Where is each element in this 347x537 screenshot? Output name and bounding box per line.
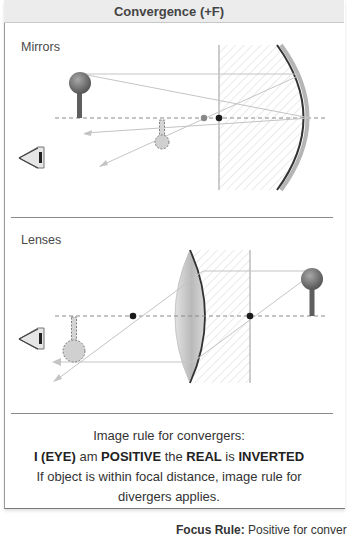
- object-ball-icon: [69, 72, 91, 118]
- image-ball-icon: [155, 120, 169, 149]
- rule-exception-line1: If object is within focal distance, imag…: [4, 467, 334, 487]
- rule-exception-line2: divergers applies.: [4, 487, 334, 507]
- eye-icon: [19, 328, 44, 349]
- focus-rule-label: Focus Rule:: [176, 523, 245, 537]
- mnemonic-text: is: [222, 449, 239, 464]
- mnemonic-eye: I (EYE): [34, 449, 76, 464]
- mnemonic-positive: POSITIVE: [101, 449, 161, 464]
- lens-diagram: [0, 240, 333, 400]
- ray-arrow-icon: [83, 130, 92, 136]
- focus-rule-text: Positive for conver: [245, 523, 347, 537]
- focal-point-f1: [130, 313, 137, 320]
- rule-mnemonic: I (EYE) am POSITIVE the REAL is INVERTED: [4, 447, 334, 467]
- image-ball-icon: [63, 317, 85, 362]
- object-ball-icon: [301, 268, 323, 316]
- mnemonic-text: am: [76, 449, 101, 464]
- mnemonic-real: REAL: [186, 449, 221, 464]
- ray-arrow-icon: [53, 374, 62, 382]
- ray-arrow-icon: [99, 160, 108, 167]
- mnemonic-inverted: INVERTED: [238, 449, 304, 464]
- rule-heading: Image rule for convergers:: [4, 426, 334, 446]
- ray-arrow-icon: [52, 358, 61, 366]
- focal-point-c: [216, 115, 223, 122]
- section-divider: [11, 217, 333, 218]
- focus-rule: Focus Rule: Positive for conver: [176, 523, 347, 537]
- eye-icon: [19, 147, 44, 168]
- section-divider: [11, 413, 333, 414]
- mirror-diagram: [0, 0, 333, 200]
- focal-point-f2: [247, 313, 254, 320]
- mnemonic-text: the: [161, 449, 186, 464]
- focal-point-f: [201, 115, 207, 121]
